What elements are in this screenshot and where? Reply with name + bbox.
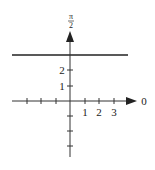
polar-graph: 1 2 3 1 2 0 π 2 <box>0 0 155 170</box>
vertical-arrow-icon <box>66 31 74 42</box>
vertical-axis-label-num: π <box>69 12 73 21</box>
polar-axis-label: 0 <box>141 95 147 107</box>
horizontal-arrow-icon <box>126 97 137 105</box>
y-tick-label: 1 <box>59 80 65 92</box>
x-tick-label: 2 <box>96 106 102 118</box>
x-tick-label: 3 <box>111 106 117 118</box>
y-tick-label: 2 <box>59 64 65 76</box>
x-tick-label: 1 <box>82 106 88 118</box>
vertical-axis-label-den: 2 <box>69 21 73 30</box>
